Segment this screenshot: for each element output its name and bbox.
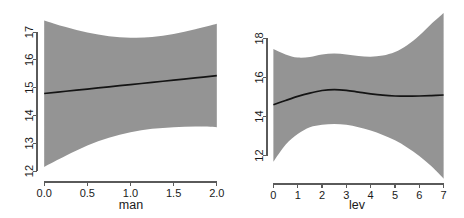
- y-tick-label: 17: [23, 26, 35, 38]
- x-tick-label: 2: [319, 189, 325, 201]
- confidence-band-man: [44, 20, 217, 166]
- x-tick-label: 6: [416, 189, 422, 201]
- panel-lev: 12141618 01234567 lev: [232, 0, 464, 218]
- x-tick-label: 7: [441, 189, 447, 201]
- y-tick-label: 12: [253, 149, 265, 161]
- panel-man: 121314151617 0.00.51.01.52.0 man: [0, 0, 232, 218]
- y-tick-label: 14: [253, 110, 265, 122]
- x-tick-label: 1: [295, 189, 301, 201]
- y-tick-label: 12: [23, 165, 35, 177]
- x-tick-label: 5: [392, 189, 398, 201]
- x-tick-label: 2.0: [209, 187, 224, 199]
- confidence-band-path: [44, 20, 217, 166]
- x-tick-label: 0: [270, 189, 276, 201]
- y-tick-label: 16: [253, 71, 265, 83]
- y-axis-man: 121314151617: [23, 26, 37, 177]
- x-tick-label: 1.5: [166, 187, 181, 199]
- y-tick-label: 16: [23, 54, 35, 66]
- y-tick-label: 18: [253, 32, 265, 44]
- x-axis-title-man: man: [119, 198, 143, 212]
- x-tick-label: 0.5: [80, 187, 95, 199]
- y-tick-label: 14: [23, 109, 35, 121]
- x-axis-title-lev: lev: [349, 198, 366, 212]
- figure-plot-area: 121314151617 0.00.51.01.52.0 man 1214161…: [0, 0, 464, 218]
- chart-lev-svg: 12141618 01234567 lev: [232, 0, 464, 218]
- x-axis-man: 0.00.51.01.52.0: [37, 182, 225, 199]
- x-tick-label: 4: [368, 189, 374, 201]
- chart-man-svg: 121314151617 0.00.51.01.52.0 man: [0, 0, 232, 218]
- x-tick-label: 0.0: [37, 187, 52, 199]
- y-tick-label: 15: [23, 82, 35, 94]
- y-tick-label: 13: [23, 137, 35, 149]
- y-axis-lev: 12141618: [253, 32, 267, 161]
